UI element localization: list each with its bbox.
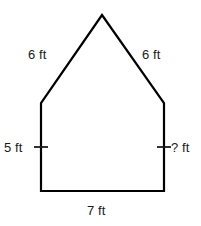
label-base-side: 7 ft	[87, 204, 105, 217]
label-left-wall-side: 5 ft	[4, 141, 22, 154]
label-right-slant-side: 6 ft	[142, 48, 160, 61]
label-right-wall-unknown: ? ft	[171, 141, 189, 154]
figure-canvas: 6 ft 6 ft 5 ft ? ft 7 ft	[0, 0, 201, 226]
label-left-slant-side: 6 ft	[28, 48, 46, 61]
house-pentagon-diagram	[0, 0, 201, 226]
pentagon-outline	[41, 15, 164, 191]
